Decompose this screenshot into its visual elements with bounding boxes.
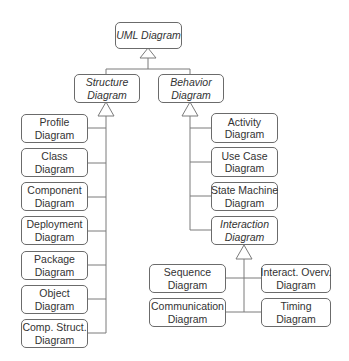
generalization-arrow-behavior — [182, 102, 198, 116]
node-label-line2: Diagram — [225, 128, 265, 141]
node-label-line1: Communication — [151, 300, 224, 313]
uml-diagram-node: UML Diagram — [115, 22, 182, 49]
deployment-diagram-node: Deployment Diagram — [21, 216, 88, 245]
timing-diagram-node: Timing Diagram — [261, 298, 331, 327]
node-label-line1: Timing — [280, 300, 311, 313]
generalization-arrow-root — [140, 48, 156, 58]
use-case-diagram-node: Use Case Diagram — [211, 147, 278, 177]
structure-diagram-node: Structure Diagram — [74, 74, 140, 103]
generalization-arrow-interaction — [236, 245, 252, 259]
generalization-arrow-structure — [98, 102, 114, 116]
node-label-line1: Class — [41, 150, 67, 163]
node-label-line1: Package — [34, 253, 75, 266]
node-label-line1: Structure — [86, 76, 129, 89]
interaction-diagram-node: Interaction Diagram — [211, 216, 278, 245]
node-label-line2: Diagram — [168, 279, 208, 292]
activity-diagram-node: Activity Diagram — [211, 113, 278, 143]
node-label-line2: Diagram — [87, 89, 127, 102]
node-label-line1: Activity — [228, 116, 261, 129]
node-label-line1: Interaction — [220, 218, 269, 231]
composite-structure-diagram-node: Comp. Struct. Diagram — [21, 319, 88, 348]
node-label-line2: Diagram — [35, 300, 75, 313]
node-label-line1: Use Case — [221, 150, 267, 163]
behavior-diagram-node: Behavior Diagram — [158, 74, 224, 103]
sequence-diagram-node: Sequence Diagram — [149, 264, 226, 293]
node-label-line2: Diagram — [225, 231, 265, 244]
state-machine-diagram-node: State Machine Diagram — [211, 182, 278, 211]
package-diagram-node: Package Diagram — [21, 251, 88, 280]
node-label-line1: Sequence — [164, 266, 211, 279]
communication-diagram-node: Communication Diagram — [149, 298, 226, 327]
node-label-line1: Profile — [40, 116, 70, 129]
node-label-line1: Object — [39, 287, 69, 300]
profile-diagram-node: Profile Diagram — [21, 114, 88, 143]
node-label-line2: Diagram — [35, 163, 75, 176]
node-label-line2: Diagram — [171, 89, 211, 102]
node-label-line2: Diagram — [168, 313, 208, 326]
node-label-line1: Deployment — [26, 218, 82, 231]
node-label-line2: Diagram — [276, 279, 316, 292]
interaction-overview-diagram-node: Interact. Overv. Diagram — [261, 264, 331, 293]
node-label-line2: Diagram — [276, 313, 316, 326]
node-label-line1: Comp. Struct. — [22, 321, 86, 334]
node-label-line1: Component — [27, 184, 81, 197]
node-label-line2: Diagram — [35, 334, 75, 347]
class-diagram-node: Class Diagram — [21, 148, 88, 177]
component-diagram-node: Component Diagram — [21, 182, 88, 211]
node-label-line2: Diagram — [35, 197, 75, 210]
node-label-line2: Diagram — [225, 162, 265, 175]
node-label-line2: Diagram — [35, 231, 75, 244]
node-label-line2: Diagram — [35, 266, 75, 279]
node-label-line1: Behavior — [170, 76, 211, 89]
node-label-line1: Interact. Overv. — [261, 266, 332, 279]
node-label-line1: State Machine — [211, 184, 278, 197]
node-label-line2: Diagram — [35, 129, 75, 142]
object-diagram-node: Object Diagram — [21, 285, 88, 314]
node-label-line2: Diagram — [225, 197, 265, 210]
node-label: UML Diagram — [116, 29, 181, 42]
